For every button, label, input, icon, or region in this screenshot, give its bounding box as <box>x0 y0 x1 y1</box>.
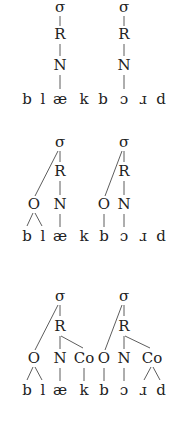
edge <box>144 367 151 380</box>
segment: ɔ <box>120 90 128 108</box>
sigma-node: σ <box>119 0 129 16</box>
segment: æ <box>53 90 67 108</box>
edge <box>125 336 150 348</box>
edge <box>35 367 42 380</box>
nucleus-node: N <box>117 195 130 213</box>
coda-node: Co <box>142 349 163 367</box>
segment: b <box>22 90 32 108</box>
nucleus-node: N <box>117 56 130 74</box>
onset-node: O <box>98 349 110 367</box>
syllable-structure-diagrams: σ R N σ R N b l æ k b ɔ ɹ d σ R O N σ <box>0 0 179 421</box>
nucleus-node: N <box>53 349 66 367</box>
rhyme-node: R <box>118 162 130 180</box>
edge <box>35 213 42 226</box>
sigma-node: σ <box>55 0 65 16</box>
segment: ɹ <box>139 381 147 399</box>
segment: b <box>22 381 32 399</box>
rhyme-node: R <box>54 162 66 180</box>
onset-node: O <box>28 349 40 367</box>
nucleus-node: N <box>53 56 66 74</box>
segment: l <box>41 381 46 399</box>
segment: k <box>79 90 89 108</box>
segment: æ <box>53 227 67 245</box>
sigma-node: σ <box>55 133 65 151</box>
rhyme-node: R <box>54 25 66 43</box>
edge <box>27 367 33 380</box>
diagram-full: σ R O N Co σ R O N Co b l æ k b ɔ ɹ d <box>22 287 166 399</box>
sigma-node: σ <box>55 287 65 305</box>
onset-node: O <box>28 195 40 213</box>
onset-node: O <box>98 195 110 213</box>
segment: b <box>98 90 108 108</box>
edge <box>61 336 83 348</box>
sigma-node: σ <box>119 287 129 305</box>
rhyme-node: R <box>118 317 130 335</box>
segment: ɔ <box>120 381 128 399</box>
diagram-flat: σ R N σ R N b l æ k b ɔ ɹ d <box>22 0 166 108</box>
diagram-with-onset: σ R O N σ R O N b l æ k b ɔ ɹ d <box>22 133 166 245</box>
segment: k <box>79 227 89 245</box>
edge <box>27 213 33 226</box>
segment: æ <box>53 381 67 399</box>
segment: d <box>156 90 166 108</box>
segment: l <box>41 90 46 108</box>
segment: b <box>99 381 109 399</box>
rhyme-node: R <box>118 25 130 43</box>
segment: ɹ <box>139 90 147 108</box>
nucleus-node: N <box>53 195 66 213</box>
segment: d <box>156 381 166 399</box>
nucleus-node: N <box>117 349 130 367</box>
coda-node: Co <box>74 349 95 367</box>
sigma-node: σ <box>119 133 129 151</box>
segment: b <box>22 227 32 245</box>
segment: b <box>99 227 109 245</box>
segment: ɹ <box>139 227 147 245</box>
rhyme-node: R <box>54 317 66 335</box>
segment: ɔ <box>120 227 128 245</box>
edge <box>153 367 160 380</box>
segment: l <box>41 227 46 245</box>
segment: k <box>79 381 89 399</box>
segment: d <box>156 227 166 245</box>
